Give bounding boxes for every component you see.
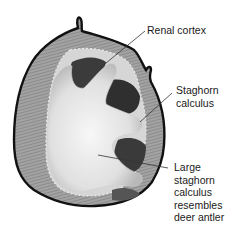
label-staghorn-calculus: Staghorn calculus [176, 84, 219, 109]
label-large-staghorn-calculus: Large staghorn calculus resembles deer a… [174, 161, 224, 224]
label-renal-cortex: Renal cortex [147, 24, 206, 37]
kidney-diagram: Renal cortex Staghorn calculus Large sta… [0, 0, 230, 229]
